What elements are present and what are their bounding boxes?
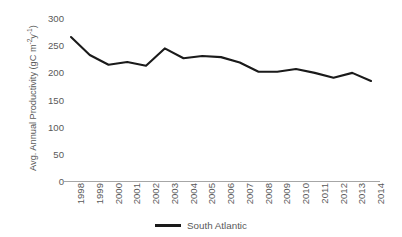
x-axis-tick-2001: 2001 (131, 183, 142, 204)
y-axis-tick-0: 0 (30, 176, 64, 187)
y-axis-tick-100: 100 (30, 121, 64, 132)
y-axis-tick-200: 200 (30, 67, 64, 78)
x-axis-tick-2009: 2009 (281, 183, 292, 204)
x-axis-tick-1998: 1998 (75, 183, 86, 204)
x-axis-tick-2004: 2004 (188, 183, 199, 204)
x-axis-tick-2005: 2005 (206, 183, 217, 204)
legend-label: South Atlantic (187, 220, 247, 231)
x-axis-tick-2011: 2011 (319, 183, 330, 204)
x-axis-tick-labels: 1998199920002001200220032004200520062007… (67, 183, 377, 223)
y-axis-tick-150: 150 (30, 94, 64, 105)
x-axis-tick-2006: 2006 (225, 183, 236, 204)
x-axis-tick-2013: 2013 (356, 183, 367, 204)
series-line-south-atlantic (67, 18, 377, 181)
y-axis-tick-labels: 050100150200250300 (30, 0, 64, 237)
x-axis-tick-2002: 2002 (150, 183, 161, 204)
y-axis-tick-250: 250 (30, 40, 64, 51)
plot-area (67, 18, 377, 181)
series-polyline-south-atlantic (71, 37, 371, 81)
legend-item: South Atlantic (155, 220, 247, 231)
x-axis-tick-2010: 2010 (300, 183, 311, 204)
chart-legend: South Atlantic (0, 220, 402, 231)
x-axis-tick-2008: 2008 (263, 183, 274, 204)
x-axis-tick-2012: 2012 (338, 183, 349, 204)
x-axis-tick-1999: 1999 (94, 183, 105, 204)
legend-line-swatch (155, 224, 181, 226)
y-axis-tick-50: 50 (30, 148, 64, 159)
y-axis-tick-300: 300 (30, 13, 64, 24)
x-axis-tick-2014: 2014 (375, 183, 386, 204)
x-axis-tick-2000: 2000 (113, 183, 124, 204)
line-chart: Avg. Annual Productivity (gC m-2y-1) 050… (0, 0, 402, 237)
x-axis-tick-2003: 2003 (169, 183, 180, 204)
x-axis-tick-2007: 2007 (244, 183, 255, 204)
